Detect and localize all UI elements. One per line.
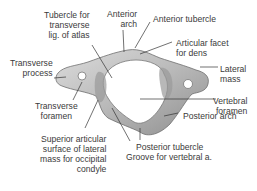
label-posterior-arch: Posterior arch (183, 111, 237, 121)
label-groove-vertebral-artery: Groove for vertebral a. (126, 152, 212, 162)
label-anterior-arch: Anterior arch (107, 9, 137, 29)
label-lateral-mass: Lateral mass (220, 64, 246, 84)
transverse-foramen-left (78, 72, 86, 80)
label-superior-articular-surface: Superior articular surface of lateral ma… (40, 134, 106, 174)
label-transverse-process: Transverse process (10, 58, 53, 78)
label-anterior-tubercle: Anterior tubercle (153, 14, 216, 24)
label-transverse-foramen: Transverse foramen (35, 101, 78, 121)
label-tubercle-transverse-ligament: Tubercle for transverse lig. of atlas (44, 10, 90, 40)
label-posterior-tubercle: Posterior tubercle (136, 142, 203, 152)
label-articular-facet-dens: Articular facet for dens (176, 38, 229, 58)
transverse-foramen-right (184, 80, 193, 89)
